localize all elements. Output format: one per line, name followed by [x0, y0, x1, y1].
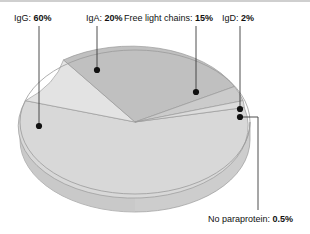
leader-dot-no-paraprotein — [237, 114, 243, 120]
label-igd-value: 2% — [241, 13, 254, 23]
label-igd: IgD: 2% — [222, 13, 254, 24]
label-iga: IgA: 20% — [86, 13, 123, 24]
pie-chart-graphic — [0, 2, 310, 234]
chart-frame: IgG: 60% IgA: 20% Free light chains: 15%… — [0, 0, 310, 234]
label-iga-value: 20% — [105, 13, 123, 23]
leader-dot-igd — [237, 106, 243, 112]
label-no-paraprotein: No paraprotein: 0.5% — [208, 214, 293, 225]
label-igg-value: 60% — [34, 13, 52, 23]
leader-dot-igg — [36, 123, 42, 129]
leader-dot-iga — [94, 67, 100, 73]
label-free-light-chains-name: Free light chains: — [124, 13, 193, 23]
label-no-paraprotein-value: 0.5% — [273, 214, 294, 224]
label-free-light-chains-value: 15% — [195, 13, 213, 23]
label-igd-name: IgD: — [222, 13, 239, 23]
label-free-light-chains: Free light chains: 15% — [124, 13, 213, 24]
pie-top-face — [18, 46, 250, 198]
leader-dot-free-light-chains — [193, 89, 199, 95]
label-igg: IgG: 60% — [14, 13, 52, 24]
label-igg-name: IgG: — [14, 13, 31, 23]
label-iga-name: IgA: — [86, 13, 102, 23]
label-no-paraprotein-name: No paraprotein: — [208, 214, 270, 224]
